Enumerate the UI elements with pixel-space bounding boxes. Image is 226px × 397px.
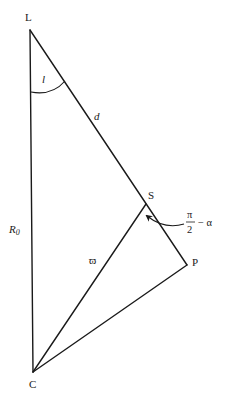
segment-C-P xyxy=(33,265,187,372)
segment-L-P xyxy=(30,30,187,265)
label-angle-numerator: π xyxy=(187,209,193,220)
angle-arc-l xyxy=(31,81,65,93)
label-angle-l: l xyxy=(42,73,45,85)
angle-arrow-S xyxy=(147,216,184,226)
label-distance-d: d xyxy=(94,110,100,122)
label-L: L xyxy=(25,11,32,23)
label-P: P xyxy=(192,256,198,268)
label-R0: R0 xyxy=(8,223,20,237)
label-S: S xyxy=(148,189,154,201)
label-C: C xyxy=(29,378,36,390)
galactic-geometry-diagram: L C S P l d R0 ϖ π 2 − α xyxy=(0,0,226,397)
segment-L-C xyxy=(30,30,33,372)
label-angle-denominator: 2 xyxy=(187,224,192,235)
segment-C-S xyxy=(33,204,146,372)
label-varpi: ϖ xyxy=(89,254,96,266)
label-angle-rest: − α xyxy=(198,217,213,228)
